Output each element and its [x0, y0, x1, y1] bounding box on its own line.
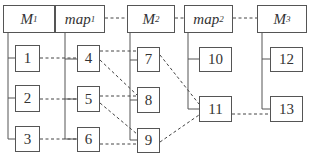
node-m1: M1: [3, 5, 55, 33]
node-subscript: 1: [33, 14, 38, 24]
node-4: 4: [77, 45, 100, 72]
node-subscript: 2: [155, 14, 160, 24]
mapping-diagram: M1 map1 M2 map2 M3 1 2 3 4 5 6 7 8 9 10 …: [0, 0, 309, 155]
node-m2: M2: [127, 5, 175, 33]
node-3: 3: [15, 126, 40, 152]
node-2: 2: [15, 85, 40, 112]
node-5: 5: [77, 86, 100, 112]
node-label: M: [274, 11, 287, 28]
node-m3: M3: [257, 5, 307, 33]
node-6: 6: [77, 127, 100, 152]
node-subscript: 3: [286, 14, 291, 24]
node-subscript: 1: [91, 14, 96, 24]
node-8: 8: [137, 87, 160, 113]
node-subscript: 2: [219, 14, 224, 24]
node-label: map: [193, 11, 219, 28]
node-map2: map2: [184, 5, 233, 33]
dashed-connectors: [40, 18, 270, 144]
node-11: 11: [199, 96, 232, 122]
node-10: 10: [199, 47, 232, 72]
node-label: map: [65, 11, 91, 28]
node-7: 7: [137, 47, 160, 72]
node-map1: map1: [55, 5, 105, 33]
node-1: 1: [15, 45, 40, 72]
node-label: M: [21, 11, 34, 28]
node-9: 9: [137, 128, 160, 153]
node-12: 12: [270, 47, 303, 72]
node-13: 13: [270, 96, 303, 122]
node-label: M: [143, 11, 156, 28]
